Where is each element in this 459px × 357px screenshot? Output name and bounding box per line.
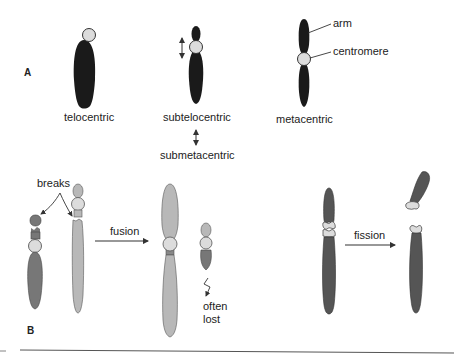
arm-label: arm	[333, 18, 352, 29]
often-lost-label-line2: lost	[203, 314, 220, 325]
metacentric-chromosome	[298, 19, 332, 107]
fusion-label: fusion	[110, 226, 139, 237]
metacentric-label: metacentric	[276, 114, 333, 125]
panel-b-label: B	[27, 325, 34, 336]
fission-product-upper	[406, 172, 430, 210]
fusion-input-chromosome-1	[28, 215, 43, 309]
panel-a-label: A	[24, 67, 31, 78]
subtelocentric-label: subtelocentric	[163, 112, 231, 123]
telocentric-label: telocentric	[64, 112, 114, 123]
centromere-label: centromere	[333, 46, 389, 57]
fusion-input-chromosome-2	[72, 184, 85, 313]
chromosome-diagram: A B telocentric subtelocentric submetace…	[0, 0, 459, 357]
fused-chromosome	[162, 184, 178, 337]
often-lost-label-line1: often	[203, 301, 227, 312]
lost-arrow	[204, 278, 210, 296]
telocentric-chromosome	[74, 29, 96, 109]
subtelocentric-chromosome	[182, 26, 203, 104]
submetacentric-label: submetacentric	[160, 150, 235, 161]
fission-label: fission	[354, 230, 385, 241]
fission-product-lower	[410, 225, 423, 313]
breaks-label: breaks	[37, 178, 70, 189]
fission-input-chromosome	[323, 188, 336, 314]
small-lost-chromosome	[200, 223, 212, 270]
